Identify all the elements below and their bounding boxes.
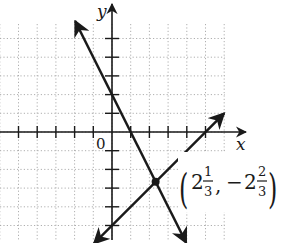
y-denominator: 3	[258, 184, 266, 199]
open-paren: (	[179, 165, 188, 212]
x-numerator: 1	[204, 164, 212, 179]
close-paren: )	[268, 165, 277, 212]
x-denominator: 3	[204, 184, 212, 199]
comma: ,	[215, 173, 221, 197]
y-axis-label: y	[96, 1, 107, 21]
intersection-point	[152, 178, 160, 186]
y-numerator: 2	[258, 164, 266, 179]
intersection-label: ( 2 1 3 , − 2 2 3 )	[178, 152, 282, 213]
y-whole: 2	[244, 170, 257, 194]
minus-sign: −	[226, 170, 243, 194]
origin-label: 0	[96, 135, 106, 153]
coordinate-plane: y x 0 ( 2 1 3 , − 2 2 3 )	[0, 0, 282, 243]
x-whole: 2	[191, 170, 204, 194]
x-axis-label: x	[236, 134, 246, 154]
